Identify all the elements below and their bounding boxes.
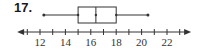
tick-label: 18: [111, 36, 123, 48]
min-point: [42, 14, 45, 17]
q3-point: [115, 14, 117, 16]
tick-label: 14: [60, 36, 72, 48]
number-line: 121416182022: [17, 29, 191, 48]
q1-point: [77, 14, 79, 16]
box: [78, 7, 116, 23]
median-point: [95, 14, 97, 16]
tick-label: 16: [85, 36, 97, 48]
tick-label: 12: [35, 36, 46, 48]
right-arrow-icon: [184, 29, 191, 35]
max-point: [146, 14, 149, 17]
left-arrow-icon: [17, 29, 24, 35]
tick-label: 20: [136, 36, 148, 48]
box-plot: [42, 7, 149, 23]
box-plot-chart: 121416182022: [0, 0, 198, 55]
tick-label: 22: [162, 36, 173, 48]
